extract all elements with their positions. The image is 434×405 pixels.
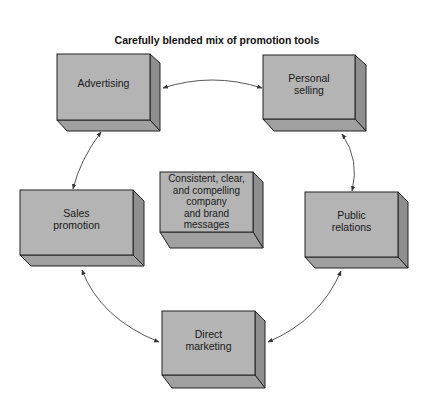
center-line3: company [186, 196, 227, 208]
center-line5: messages [184, 219, 230, 231]
direct-marketing-line1: Direct [195, 328, 222, 340]
label-sales-promotion: Sales promotion [20, 190, 133, 248]
label-center-message: Consistent, clear, and compelling compan… [160, 172, 253, 232]
arrow-advertising-personal-selling [163, 80, 262, 88]
arrow-public-relations-direct-marketing [268, 271, 341, 342]
label-public-relations: Public relations [305, 192, 398, 250]
label-personal-selling: Personal selling [263, 55, 355, 113]
public-relations-line1: Public [337, 209, 366, 221]
center-line4: and brand [184, 208, 229, 220]
sales-promotion-line2: promotion [53, 219, 100, 231]
arrow-direct-marketing-sales-promotion [82, 270, 159, 342]
center-line2: and compelling [173, 185, 240, 197]
label-advertising: Advertising [57, 54, 150, 112]
sales-promotion-line1: Sales [63, 207, 89, 219]
center-line1: Consistent, clear, [168, 173, 245, 185]
arrow-personal-selling-public-relations [342, 134, 354, 191]
personal-selling-line2: selling [294, 84, 324, 96]
personal-selling-line1: Personal [288, 72, 329, 84]
arrow-sales-promotion-advertising [73, 132, 101, 189]
direct-marketing-line2: marketing [185, 340, 231, 352]
label-direct-marketing: Direct marketing [162, 311, 255, 369]
advertising-text: Advertising [78, 77, 130, 89]
public-relations-line2: relations [332, 221, 372, 233]
